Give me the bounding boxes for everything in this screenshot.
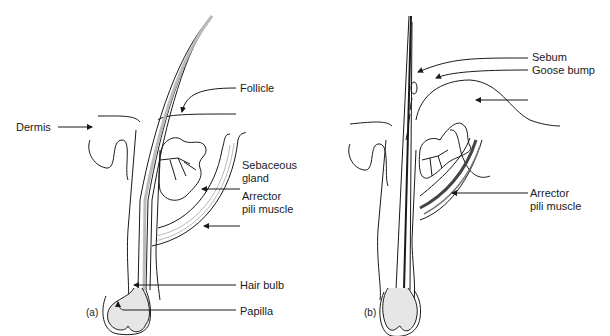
label-dermis: Dermis [16,121,51,134]
hair-follicle-diagram [0,0,610,336]
panel-a-drawing [58,16,246,335]
label-papilla: Papilla [240,305,273,318]
label-arrector-a-line1: Arrector [242,190,281,203]
label-goose-bump: Goose bump [532,64,595,77]
panel-label-b: (b) [364,307,376,318]
label-sebaceous-line1: Sebaceous [242,159,297,172]
label-hair-bulb: Hair bulb [240,279,284,292]
panel-b-drawing [349,16,560,336]
label-arrector-b-line1: Arrector [530,187,569,200]
panel-label-a: (a) [86,307,98,318]
label-sebum: Sebum [532,51,567,64]
label-arrector-b-line2: pili muscle [530,200,581,213]
label-sebaceous-line2: gland [242,172,269,185]
label-arrector-a-line2: pili muscle [242,203,293,216]
label-follicle: Follicle [240,82,274,95]
